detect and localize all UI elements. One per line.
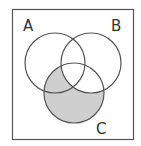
set-b-label: B xyxy=(111,17,121,35)
set-a-label: A xyxy=(23,17,34,35)
venn-diagram: A B C xyxy=(0,0,141,146)
venn-svg: A B C xyxy=(0,0,141,146)
set-c-label: C xyxy=(96,120,106,138)
